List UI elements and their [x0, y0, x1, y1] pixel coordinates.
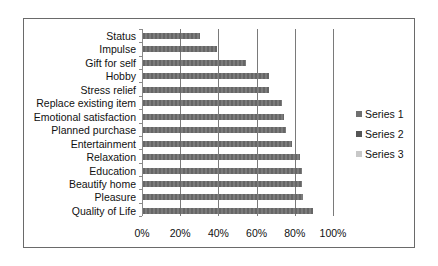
- category-label: Stress relief: [81, 84, 136, 96]
- x-tick-label: 100%: [313, 227, 353, 239]
- plot-area: [142, 29, 333, 216]
- x-tick-label: 80%: [275, 227, 315, 239]
- bar-series-1: [143, 60, 246, 66]
- y-axis-tick: [139, 69, 142, 70]
- category-label: Quality of Life: [72, 205, 136, 217]
- legend-swatch-icon: [356, 131, 362, 137]
- legend-label: Series 3: [365, 148, 404, 160]
- category-label: Beautify home: [69, 178, 136, 190]
- x-tick-label: 60%: [237, 227, 277, 239]
- category-label: Impulse: [99, 43, 136, 55]
- bar-series-1: [143, 208, 313, 214]
- y-axis-tick: [139, 203, 142, 204]
- bar-series-1: [143, 100, 282, 106]
- legend: Series 1Series 2Series 3: [356, 108, 404, 168]
- bar-series-1: [143, 181, 302, 187]
- category-label: Gift for self: [85, 57, 136, 69]
- legend-swatch-icon: [356, 151, 362, 157]
- y-axis-tick: [139, 109, 142, 110]
- category-label: Replace existing item: [36, 97, 136, 109]
- x-tick-label: 0%: [122, 227, 162, 239]
- y-axis-tick: [139, 29, 142, 30]
- category-label: Emotional satisfaction: [34, 111, 136, 123]
- bar-series-1: [143, 87, 269, 93]
- category-label: Hobby: [106, 70, 136, 82]
- y-axis-tick: [139, 56, 142, 57]
- y-axis-tick: [139, 163, 142, 164]
- gridline: [218, 29, 219, 216]
- x-tick-label: 20%: [160, 227, 200, 239]
- gridline: [295, 29, 296, 216]
- legend-item: Series 3: [356, 148, 404, 168]
- bar-series-1: [143, 114, 284, 120]
- legend-item: Series 1: [356, 108, 404, 128]
- y-axis-tick: [139, 42, 142, 43]
- bar-series-1: [143, 127, 286, 133]
- y-axis-tick: [139, 149, 142, 150]
- legend-label: Series 2: [365, 128, 404, 140]
- legend-swatch-icon: [356, 111, 362, 117]
- bar-series-1: [143, 46, 217, 52]
- bar-series-1: [143, 168, 302, 174]
- y-axis-tick: [139, 216, 142, 217]
- y-axis-tick: [139, 96, 142, 97]
- gridline: [180, 29, 181, 216]
- category-label: Entertainment: [71, 138, 136, 150]
- legend-item: Series 2: [356, 128, 404, 148]
- gridline: [333, 29, 334, 216]
- legend-label: Series 1: [365, 108, 404, 120]
- y-axis-tick: [139, 189, 142, 190]
- y-axis-tick: [139, 123, 142, 124]
- category-label: Planned purchase: [51, 124, 136, 136]
- y-axis-line: [142, 29, 143, 216]
- y-axis-tick: [139, 176, 142, 177]
- y-axis-tick: [139, 136, 142, 137]
- category-label: Status: [106, 30, 136, 42]
- bar-series-1: [143, 154, 300, 160]
- gridline: [257, 29, 258, 216]
- category-label: Relaxation: [86, 151, 136, 163]
- bar-series-1: [143, 194, 303, 200]
- bar-series-1: [143, 141, 292, 147]
- x-tick-label: 40%: [198, 227, 238, 239]
- category-label: Education: [89, 165, 136, 177]
- y-axis-tick: [139, 82, 142, 83]
- bar-series-1: [143, 33, 200, 39]
- bar-series-1: [143, 73, 269, 79]
- category-label: Pleasure: [95, 191, 136, 203]
